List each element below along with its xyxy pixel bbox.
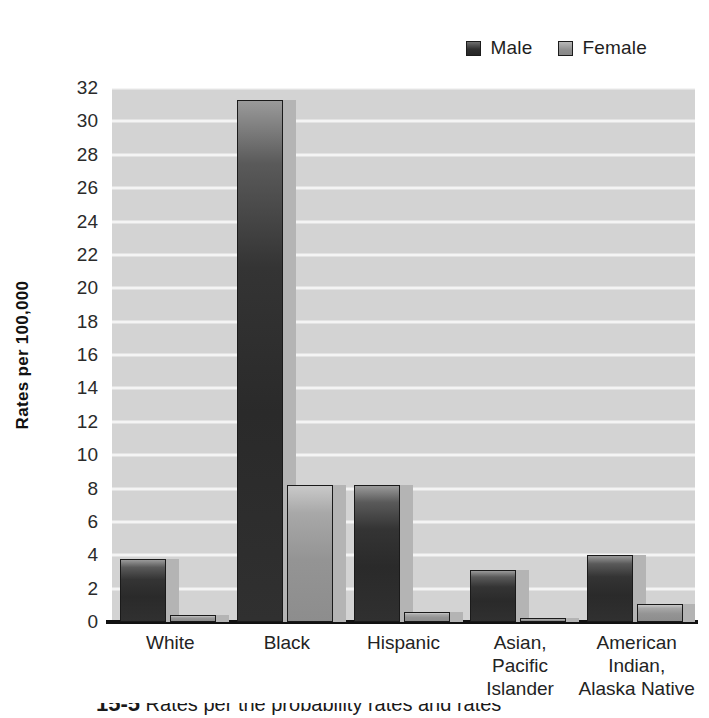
y-axis-title-text: Rates per 100,000: [13, 281, 33, 430]
x-tick-label: White: [112, 631, 229, 654]
x-tick-label: AmericanIndian,Alaska Native: [578, 631, 695, 700]
x-tick-label-line: Islander: [462, 677, 579, 700]
bar-group: [120, 88, 229, 622]
bar-male-hispanic[interactable]: [354, 485, 400, 622]
caption-body: Rates per the probability rates and rate…: [146, 703, 502, 715]
y-tick-label: 32: [77, 77, 98, 99]
bar-group: [354, 88, 463, 622]
x-tick-label-line: Hispanic: [345, 631, 462, 654]
bar-female-white[interactable]: [170, 615, 216, 622]
chart-legend: Male Female: [0, 34, 709, 62]
plot-area: [112, 88, 695, 622]
y-tick-label: 30: [77, 110, 98, 132]
y-tick-label: 0: [87, 611, 98, 633]
legend-label-female: Female: [582, 37, 647, 59]
y-tick-label: 6: [87, 511, 98, 533]
y-tick-label: 18: [77, 311, 98, 333]
bar-female-hispanic[interactable]: [404, 612, 450, 622]
x-tick-label-line: Pacific: [462, 654, 579, 677]
x-tick-label-line: Indian,: [578, 654, 695, 677]
bar-female-black[interactable]: [287, 485, 333, 622]
y-tick-label: 16: [77, 344, 98, 366]
x-axis-labels: WhiteBlackHispanicAsian,PacificIslanderA…: [112, 631, 695, 697]
x-tick-label-line: Alaska Native: [578, 677, 695, 700]
bar-male-asian[interactable]: [470, 570, 516, 622]
bar-male-american[interactable]: [587, 555, 633, 622]
bar-male-white[interactable]: [120, 559, 166, 622]
caption-line: 15-5 Rates per the probability rates and…: [96, 703, 501, 717]
y-tick-label: 20: [77, 277, 98, 299]
legend-entry-female: Female: [558, 37, 647, 59]
y-tick-label: 4: [87, 544, 98, 566]
x-tick-label-line: Asian,: [462, 631, 579, 654]
legend-label-male: Male: [490, 37, 532, 59]
male-swatch-icon: [466, 41, 481, 56]
bar-male-black[interactable]: [237, 100, 283, 622]
y-tick-label: 14: [77, 377, 98, 399]
y-tick-label: 10: [77, 444, 98, 466]
x-tick-label: Asian,PacificIslander: [462, 631, 579, 700]
y-tick-label: 26: [77, 177, 98, 199]
bar-group: [237, 88, 346, 622]
y-tick-label: 2: [87, 578, 98, 600]
female-swatch-icon: [558, 41, 573, 56]
y-tick-label: 28: [77, 144, 98, 166]
y-axis-title: Rates per 100,000: [10, 88, 36, 622]
bar-group: [587, 88, 695, 622]
y-tick-label: 12: [77, 411, 98, 433]
bar-group: [470, 88, 579, 622]
bar-female-american[interactable]: [637, 604, 683, 622]
x-tick-label-line: American: [578, 631, 695, 654]
y-tick-label: 22: [77, 244, 98, 266]
y-axis-ticks: 02468101214161820222426283032: [40, 88, 106, 622]
bar-female-asian[interactable]: [520, 618, 566, 622]
y-tick-label: 24: [77, 211, 98, 233]
x-tick-label: Hispanic: [345, 631, 462, 654]
x-tick-label-line: Black: [229, 631, 346, 654]
x-tick-label-line: White: [112, 631, 229, 654]
y-tick-label: 8: [87, 478, 98, 500]
x-tick-label: Black: [229, 631, 346, 654]
figure-caption: 15-5 Rates per the probability rates and…: [0, 703, 709, 718]
caption-number: 15-5: [96, 703, 140, 716]
legend-entry-male: Male: [466, 37, 532, 59]
